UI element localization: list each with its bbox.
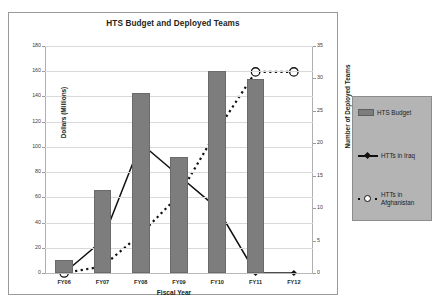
tick-mark (313, 111, 316, 112)
tick-mark (313, 176, 316, 177)
y-axis-left-tick: 80 (19, 169, 41, 174)
tick-mark (313, 143, 316, 144)
y-axis-right-tick: 25 (317, 108, 339, 113)
y-axis-right-tick: 5 (317, 238, 339, 243)
dotted-circle-swatch-icon (358, 195, 378, 203)
chart-frame: HTS Budget and Deployed Teams Dollars (M… (8, 12, 338, 295)
bar-fy09 (170, 157, 188, 273)
tick-mark (42, 197, 45, 198)
tick-mark (313, 46, 316, 47)
x-axis-tick: FY10 (197, 279, 237, 285)
y-axis-right-tick: 0 (317, 270, 339, 275)
legend-item-htts-iraq: HTTs in Iraq (358, 152, 415, 160)
y-axis-left-tick: 20 (19, 245, 41, 250)
bar-fy07 (94, 190, 112, 273)
tick-mark (42, 122, 45, 123)
legend-item-htts-afghanistan: HTTs in Afghanistan (358, 191, 430, 206)
x-axis-tick: FY12 (274, 279, 314, 285)
tick-mark (42, 273, 45, 274)
tick-mark (42, 248, 45, 249)
legend-item-hts-budget: HTS Budget (358, 109, 411, 117)
x-axis-tick: FY08 (121, 279, 161, 285)
y-axis-left-tick: 120 (19, 119, 41, 124)
y-axis-right-tick: 30 (317, 75, 339, 80)
y-axis-right-tick: 20 (317, 140, 339, 145)
legend-label-htts-iraq: HTTs in Iraq (381, 152, 415, 160)
y-axis-right-tick: 10 (317, 205, 339, 210)
line-diamond-swatch-icon (358, 152, 378, 159)
tick-mark (313, 208, 316, 209)
legend-label-hts-budget: HTS Budget (377, 109, 411, 117)
y-axis-right-title: Number of Deployed Teams (344, 37, 351, 177)
gridline (45, 71, 313, 72)
legend-label-htts-afghanistan: HTTs in Afghanistan (381, 191, 429, 206)
gridline (45, 96, 313, 97)
y-axis-left-tick: 160 (19, 68, 41, 73)
tick-mark (42, 96, 45, 97)
bar-fy11 (247, 79, 265, 273)
tick-mark (42, 147, 45, 148)
bar-fy10 (208, 71, 226, 273)
tick-mark (313, 241, 316, 242)
bar-fy06 (55, 260, 73, 273)
chart-legend: HTS Budget HTTs in Iraq HTTs in Afghanis… (352, 96, 432, 221)
bar-swatch-icon (358, 109, 374, 116)
gridline (45, 46, 313, 47)
tick-mark (313, 78, 316, 79)
y-axis-left-tick: 140 (19, 93, 41, 98)
gridline (45, 147, 313, 148)
x-axis-tick: FY06 (44, 279, 84, 285)
y-axis-left-tick: 180 (19, 43, 41, 48)
bar-fy08 (132, 93, 150, 273)
tick-mark (42, 46, 45, 47)
y-axis-right-tick: 35 (317, 43, 339, 48)
y-axis-left-title: Dollars (Millions) (60, 53, 67, 173)
chart-screenshot: HTS Budget and Deployed Teams Dollars (M… (0, 0, 438, 304)
gridline (45, 273, 313, 274)
chart-title: HTS Budget and Deployed Teams (9, 19, 337, 28)
tick-mark (42, 172, 45, 173)
y-axis-right-tick: 15 (317, 173, 339, 178)
x-axis-tick: FY11 (236, 279, 276, 285)
tick-mark (313, 273, 316, 274)
tick-mark (42, 71, 45, 72)
x-axis-title: Fiscal Year (9, 289, 339, 296)
y-axis-left-tick: 60 (19, 194, 41, 199)
y-axis-left-tick: 40 (19, 220, 41, 225)
y-axis-left-tick: 100 (19, 144, 41, 149)
plot-area (45, 46, 313, 273)
x-axis-tick: FY09 (159, 279, 199, 285)
tick-mark (42, 223, 45, 224)
y-axis-left-tick: 0 (19, 270, 41, 275)
x-axis-tick: FY07 (82, 279, 122, 285)
gridline (45, 122, 313, 123)
